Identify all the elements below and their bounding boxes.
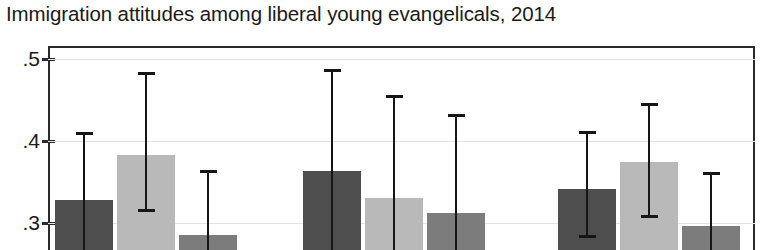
error-bar-cap-upper	[703, 172, 720, 175]
error-bar	[648, 103, 651, 218]
error-bar-cap-upper	[641, 103, 658, 106]
error-bar	[710, 172, 713, 250]
error-bar-cap-lower	[579, 235, 596, 238]
error-bar-cap-upper	[579, 131, 596, 134]
chart-root: Immigration attitudes among liberal youn…	[0, 0, 781, 250]
error-bar-cap-lower	[641, 215, 658, 218]
plot-area	[48, 46, 755, 250]
plot-clip	[0, 0, 781, 250]
error-bar	[586, 131, 589, 238]
bar-group	[48, 46, 755, 250]
